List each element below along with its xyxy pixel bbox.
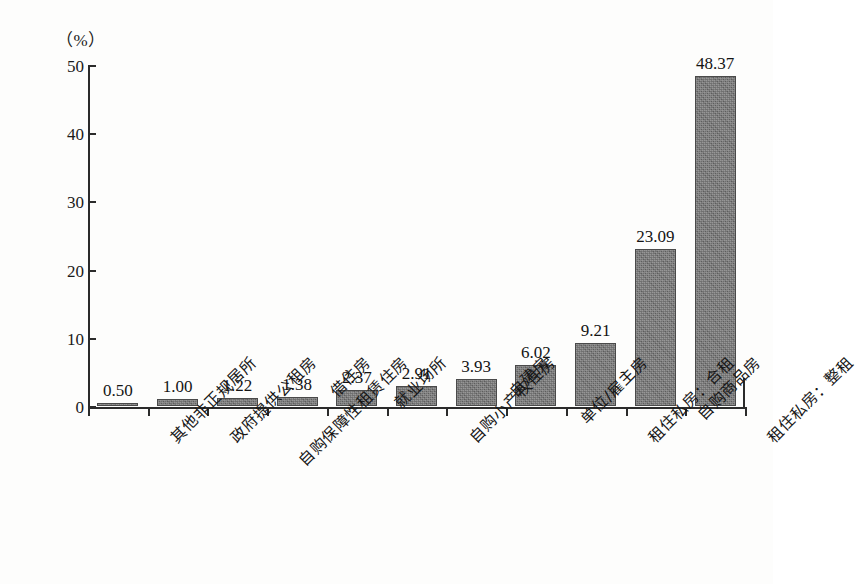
x-axis-tick xyxy=(626,407,628,416)
x-axis-tick xyxy=(446,407,448,416)
y-axis-tick-label: 40 xyxy=(50,126,84,143)
y-axis-tick-label: 10 xyxy=(50,330,84,347)
bar-value-label: 48.37 xyxy=(675,55,755,72)
y-axis-tick-labels: 01020304050 xyxy=(44,66,84,409)
y-axis-unit-label: （%） xyxy=(56,26,106,51)
x-axis-category-label: 租住私房：整租 xyxy=(765,354,857,446)
plot-area: 01020304050 0.501.001.221.382.372.913.93… xyxy=(88,66,745,408)
y-axis-tick-label: 0 xyxy=(50,399,84,416)
x-axis-line xyxy=(88,407,745,409)
x-axis-tick xyxy=(88,407,90,416)
x-axis-tick xyxy=(566,407,568,416)
y-axis-tick xyxy=(88,201,96,203)
x-axis-tick xyxy=(745,407,747,416)
y-axis-line xyxy=(88,66,90,409)
y-axis-tick xyxy=(88,270,96,272)
x-axis-tick xyxy=(327,407,329,416)
bar-value-label: 23.09 xyxy=(615,228,695,245)
y-axis-tick-label: 30 xyxy=(50,194,84,211)
x-axis-tick xyxy=(148,407,150,416)
y-axis-tick xyxy=(88,65,96,67)
bar-value-label: 9.21 xyxy=(556,322,636,339)
y-axis-tick xyxy=(88,338,96,340)
bar[interactable] xyxy=(635,249,676,406)
y-axis-tick-label: 50 xyxy=(50,58,84,75)
bar[interactable] xyxy=(97,403,138,406)
bar[interactable] xyxy=(456,379,497,406)
y-axis-tick xyxy=(88,133,96,135)
bar[interactable] xyxy=(157,399,198,406)
x-axis-tick xyxy=(387,407,389,416)
y-axis-tick-label: 20 xyxy=(50,262,84,279)
